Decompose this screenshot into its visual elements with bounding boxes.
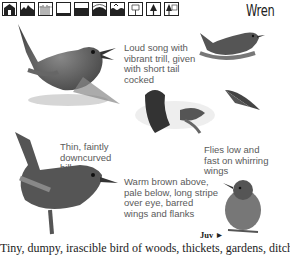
habitat-icon-bar xyxy=(2,2,179,16)
caption-flight: Flies low and fast on whirring wings xyxy=(204,145,274,177)
farmland-icon xyxy=(20,2,35,16)
open-ground-icon xyxy=(56,2,71,16)
wren-juvenile-illustration xyxy=(218,175,268,235)
wren-tail-cocked-illustration xyxy=(195,28,265,63)
wren-profile-illustration xyxy=(10,130,120,235)
mixed-woodland-icon xyxy=(164,2,179,16)
wren-singing-illustration xyxy=(8,22,123,107)
species-title: Wren xyxy=(246,2,275,20)
hill-icon xyxy=(92,2,107,16)
water-icon xyxy=(74,2,89,16)
juvenile-label: Juv ► xyxy=(200,230,224,240)
deciduous-tree-icon xyxy=(128,2,143,16)
house-icon xyxy=(2,2,17,16)
wren-flight-illustration xyxy=(125,85,275,135)
species-description: Tiny, dumpy, irascible bird of woods, th… xyxy=(0,241,290,256)
reedbed-icon xyxy=(38,2,53,16)
caption-plumage: Warm brown above, pale below, long strip… xyxy=(124,177,219,219)
coast-icon xyxy=(110,2,125,16)
conifer-tree-icon xyxy=(146,2,161,16)
